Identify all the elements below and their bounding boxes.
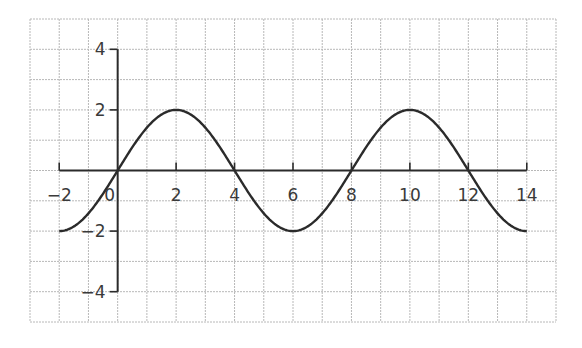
x-tick-label: 8 [346,185,357,205]
y-tick-label: −2 [81,221,106,241]
x-tick-label: 4 [229,185,240,205]
x-tick-label: 14 [516,185,538,205]
x-tick-label: 6 [288,185,299,205]
y-tick-label: −4 [81,282,106,302]
x-tick-label: 0 [104,185,115,205]
sine-chart: −20246810121442−2−4 [0,0,582,348]
x-tick-label: 10 [399,185,421,205]
y-tick-label: 4 [95,39,106,59]
y-tick-label: 2 [95,100,106,120]
x-tick-label: 12 [458,185,480,205]
x-tick-label: 2 [171,185,182,205]
x-tick-label: −2 [47,185,72,205]
